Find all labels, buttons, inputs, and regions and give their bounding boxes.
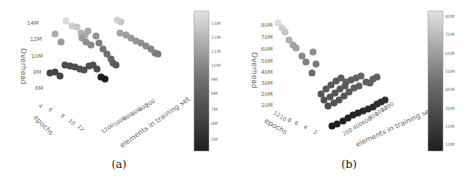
y-axis-label: elements in training set: [354, 106, 433, 149]
x-tick: 10: [67, 117, 77, 127]
colorbar-tick: 10M: [211, 63, 221, 68]
z-tick: 60M: [261, 46, 273, 52]
colorbar-tick: 8M: [211, 91, 218, 96]
z-tick: 10M: [31, 53, 43, 59]
caption-a: (a): [99, 158, 139, 171]
colorbar-tick: 30M: [445, 106, 455, 111]
x-tick: 2: [313, 129, 319, 136]
z-tick: 8M: [33, 69, 41, 75]
colorbar-tick: 6M: [211, 121, 218, 126]
z-tick: 12M: [30, 36, 42, 42]
chart-panel-a: Overhead 14M 12M 10M 8M 6M 4 6 8 10 12 e…: [0, 0, 235, 183]
y-tick: 200: [144, 98, 156, 109]
colorbar-tick: 11M: [211, 49, 221, 54]
colorbar-ticks: 13M 12M 11M 10M 9M 8M 7M 6M 5M: [211, 21, 221, 142]
colorbar-tick: 10M: [445, 142, 455, 147]
chart-panel-b: Overhead 80M 70M 60M 50M 40M 30M 20M 10M…: [236, 0, 471, 183]
data-points: [47, 17, 162, 83]
z-tick: 14M: [27, 20, 39, 26]
z-axis-ticks: 14M 12M 10M 8M 6M: [27, 20, 43, 91]
colorbar-tick: 60M: [445, 51, 455, 56]
z-tick: 70M: [261, 34, 273, 40]
colorbar-tick: 12M: [211, 35, 221, 40]
x-tick: 8: [59, 112, 66, 119]
z-axis-label: Overhead: [250, 52, 259, 89]
x-axis-label: epochs: [32, 114, 56, 138]
grid-cluster: [318, 73, 381, 110]
colorbar-tick: 40M: [445, 87, 455, 92]
colorbar-tick: 50M: [445, 69, 455, 74]
x-tick: 4: [303, 124, 309, 131]
x-tick: 4: [37, 102, 44, 109]
colorbar-tick: 13M: [211, 21, 221, 26]
colorbar-tick: 5M: [211, 137, 218, 142]
colorbar-tick: 80M: [445, 14, 455, 19]
colorbar-tick: 7M: [211, 107, 218, 112]
colorbar-tick: 20M: [445, 124, 455, 129]
z-tick: 40M: [261, 69, 273, 75]
colorbar-b: [428, 11, 443, 151]
z-tick: 50M: [261, 58, 273, 64]
x-tick: 8: [287, 117, 293, 124]
scatter3d-plot-a: Overhead 14M 12M 10M 8M 6M 4 6 8 10 12 e…: [0, 0, 235, 183]
caption-b: (b): [329, 158, 369, 171]
x-tick: 6: [47, 106, 54, 113]
x-tick: 12: [76, 123, 85, 132]
z-tick: 10M: [261, 102, 273, 108]
z-axis-label: Overhead: [19, 48, 28, 85]
x-tick: 6: [294, 120, 300, 127]
colorbar-tick: 70M: [445, 32, 455, 37]
scatter3d-plot-b: Overhead 80M 70M 60M 50M 40M 30M 20M 10M…: [236, 0, 471, 183]
z-axis-ticks: 80M 70M 60M 50M 40M 30M 20M 10M: [261, 22, 273, 108]
colorbar-a: [194, 11, 209, 151]
z-tick: 20M: [261, 91, 273, 97]
z-tick: 30M: [261, 80, 273, 86]
colorbar-tick: 9M: [211, 77, 218, 82]
colorbar-ticks: 80M 70M 60M 50M 40M 30M 20M 10M: [445, 14, 455, 147]
z-tick: 6M: [35, 85, 43, 91]
z-tick: 80M: [261, 22, 273, 28]
